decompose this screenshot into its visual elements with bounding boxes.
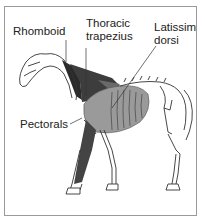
pectorals-label: Pectorals [20,118,68,130]
front-left-hoof [66,188,80,194]
front-right-leg [100,130,112,184]
tail [184,90,192,140]
latissimus-label-line2: dorsi [154,34,179,46]
hind-hoof [166,184,180,190]
hind-femur [164,108,172,134]
pelvis [160,86,172,110]
hind-cannon [172,154,176,184]
hind-tibia [168,134,180,154]
thoracic-trapezius-label-line1: Thoracic [86,17,130,29]
pectorals-muscle [74,120,96,184]
latissimus-label-line1: Latissim [154,21,196,33]
pectorals-leader [70,118,82,124]
thoracic-trapezius-label-line2: trapezius [86,30,133,42]
front-right-hoof [106,184,118,190]
rhomboid-label: Rhomboid [13,25,65,37]
